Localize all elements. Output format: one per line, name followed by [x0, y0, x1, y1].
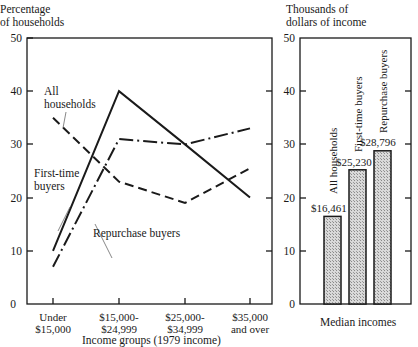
category-25000-34999: $25,000- $34,999 [155, 311, 215, 335]
category-under-15000: Under $15,000 [23, 311, 83, 335]
annotation-line: First-time [34, 167, 79, 180]
category-line: Under [23, 311, 83, 323]
left-tick-30: 30 [2, 138, 22, 150]
bar-value-first-time-buyers: $25,230 [336, 156, 372, 168]
bar-name-all-households: All households [327, 128, 339, 194]
annotation-all-households: All households [44, 85, 96, 111]
left-y-axis-title: Percentage of households [0, 3, 64, 29]
left-y-axis-title-line2: of households [0, 16, 64, 29]
right-tick-0: 0 [275, 298, 295, 310]
bar-name-repurchase-buyers: Repurchase buyers [377, 50, 389, 133]
right-tick-40: 40 [275, 85, 295, 97]
bar-name-first-time-buyers: First-time buyers [352, 77, 364, 152]
category-15000-24999: $15,000- $24,999 [89, 311, 149, 335]
left-tick-20: 20 [2, 192, 22, 204]
series-all-households [53, 118, 250, 203]
bar-value-all-households: $16,461 [311, 202, 347, 214]
right-y-axis-title-line2: dollars of income [286, 16, 366, 29]
right-tick-30: 30 [275, 138, 295, 150]
right-tick-20: 20 [275, 192, 295, 204]
category-35000-and-over: $35,000 and over [220, 311, 280, 335]
annotation-line: households [44, 98, 96, 111]
bar-all-households [324, 216, 341, 304]
category-line: $15,000- [89, 311, 149, 323]
left-tick-40: 40 [2, 85, 22, 97]
category-line: and over [220, 323, 280, 335]
left-y-axis-title-line1: Percentage [0, 3, 64, 16]
bar-first-time-buyers [349, 170, 366, 304]
annotation-line: All [44, 85, 96, 98]
category-line: $15,000 [23, 323, 83, 335]
left-x-axis-title: Income groups (1979 income) [82, 334, 221, 347]
bar-repurchase-buyers [374, 151, 391, 304]
left-tick-50: 50 [2, 32, 22, 44]
right-y-axis-title: Thousands of dollars of income [286, 3, 366, 29]
series-repurchase-buyers [53, 128, 250, 266]
annotation-first-time-buyers: First-time buyers [34, 167, 79, 193]
bar-value-repurchase-buyers: $28,796 [360, 136, 396, 148]
right-tick-10: 10 [275, 245, 295, 257]
right-y-axis-title-line1: Thousands of [286, 3, 366, 16]
left-tick-0: 0 [0, 298, 16, 310]
left-tick-10: 10 [2, 245, 22, 257]
annotation-line: buyers [34, 180, 79, 193]
category-line: $35,000 [220, 311, 280, 323]
annotation-repurchase-buyers: Repurchase buyers [93, 227, 180, 240]
right-tick-50: 50 [275, 32, 295, 44]
right-x-axis-title: Median incomes [320, 316, 396, 329]
category-line: $25,000- [155, 311, 215, 323]
